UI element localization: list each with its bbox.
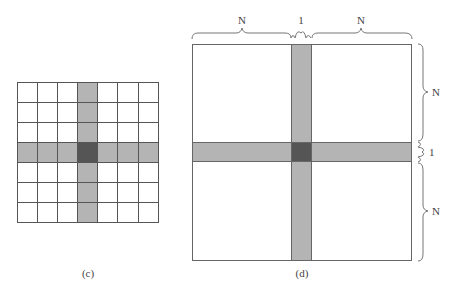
- top-braces: [192, 28, 412, 39]
- caption-d: (d): [296, 267, 309, 280]
- figure-c-grid: [17, 82, 159, 223]
- figure-d-box: N 1 N N 1 N: [192, 14, 440, 261]
- center-cell: [291, 142, 312, 162]
- right-brace-label-top: N: [432, 86, 440, 98]
- right-brace-label-middle: 1: [429, 146, 435, 158]
- top-brace-label-middle: 1: [298, 14, 304, 26]
- center-cell: [77, 142, 97, 162]
- diagram-canvas: N 1 N N 1 N (c) (d): [0, 0, 456, 291]
- top-brace-label-right: N: [357, 14, 365, 26]
- right-braces: [418, 44, 428, 261]
- top-brace-label-left: N: [238, 14, 246, 26]
- caption-c: (c): [82, 267, 95, 280]
- right-brace-label-bottom: N: [432, 205, 440, 217]
